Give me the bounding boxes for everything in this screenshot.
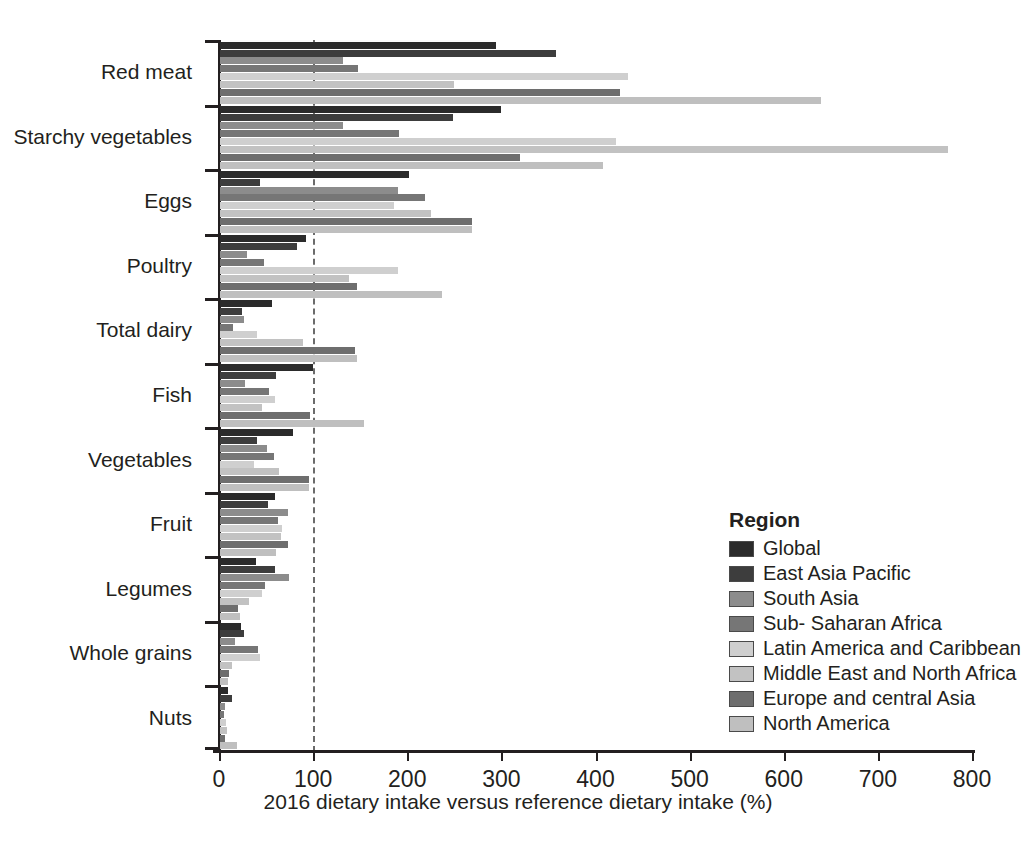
legend-item[interactable]: North America bbox=[729, 711, 1021, 736]
bar bbox=[220, 437, 257, 444]
bar bbox=[220, 461, 254, 468]
bar bbox=[220, 73, 628, 80]
bar bbox=[220, 703, 225, 710]
x-axis-tick-label: 400 bbox=[576, 766, 614, 793]
x-axis-line bbox=[213, 750, 975, 753]
bar bbox=[220, 162, 603, 169]
x-axis-tick bbox=[972, 750, 974, 761]
bar bbox=[220, 396, 275, 403]
bar bbox=[220, 711, 224, 718]
legend-swatch bbox=[729, 541, 754, 557]
bar bbox=[220, 429, 293, 436]
bar bbox=[220, 194, 425, 201]
bar bbox=[220, 493, 275, 500]
legend-item[interactable]: Europe and central Asia bbox=[729, 686, 1021, 711]
bar bbox=[220, 300, 272, 307]
bar bbox=[220, 283, 357, 290]
bar bbox=[220, 525, 282, 532]
bar bbox=[220, 412, 310, 419]
y-axis-category-label: Whole grains bbox=[69, 641, 192, 665]
legend-swatch bbox=[729, 591, 754, 607]
bar bbox=[220, 623, 241, 630]
bar bbox=[220, 687, 228, 694]
legend-item[interactable]: Global bbox=[729, 536, 1021, 561]
bar bbox=[220, 735, 225, 742]
bar bbox=[220, 501, 268, 508]
legend-item[interactable]: South Asia bbox=[729, 586, 1021, 611]
y-axis-tick bbox=[205, 556, 219, 559]
legend-swatch bbox=[729, 641, 754, 657]
y-axis-category-label: Eggs bbox=[144, 189, 192, 213]
y-axis-category-label: Total dairy bbox=[96, 318, 192, 342]
y-axis-category-label: Nuts bbox=[149, 706, 192, 730]
legend-item-label: Latin America and Caribbean bbox=[763, 637, 1021, 660]
legend-item[interactable]: East Asia Pacific bbox=[729, 561, 1021, 586]
x-axis-tick-label: 800 bbox=[953, 766, 991, 793]
legend-item[interactable]: Sub- Saharan Africa bbox=[729, 611, 1021, 636]
x-axis-tick bbox=[501, 750, 503, 761]
bar bbox=[220, 388, 269, 395]
bar bbox=[220, 114, 453, 121]
y-axis-category-label: Poultry bbox=[127, 254, 192, 278]
bar bbox=[220, 613, 240, 620]
bar bbox=[220, 50, 556, 57]
x-axis-tick-label: 600 bbox=[765, 766, 803, 793]
bar bbox=[220, 267, 398, 274]
legend-swatch bbox=[729, 616, 754, 632]
bar bbox=[220, 719, 226, 726]
bar bbox=[220, 218, 472, 225]
y-axis-category-label: Red meat bbox=[101, 60, 192, 84]
y-axis-tick bbox=[205, 747, 219, 750]
y-axis-category-label: Vegetables bbox=[88, 448, 192, 472]
x-axis-title: 2016 dietary intake versus reference die… bbox=[0, 790, 1036, 814]
bar bbox=[220, 259, 264, 266]
bar bbox=[220, 476, 309, 483]
y-axis-category-label: Legumes bbox=[106, 577, 192, 601]
x-axis-tick-label: 200 bbox=[388, 766, 426, 793]
bar bbox=[220, 130, 399, 137]
y-axis-tick bbox=[205, 363, 219, 366]
bar bbox=[220, 654, 260, 661]
bar bbox=[220, 235, 306, 242]
bar bbox=[220, 445, 267, 452]
bar bbox=[220, 517, 278, 524]
bar-group bbox=[219, 40, 972, 105]
legend-item[interactable]: Latin America and Caribbean bbox=[729, 636, 1021, 661]
bar bbox=[220, 574, 289, 581]
bar bbox=[220, 154, 520, 161]
legend-swatch bbox=[729, 691, 754, 707]
legend-swatch bbox=[729, 566, 754, 582]
y-axis-tick bbox=[205, 685, 219, 688]
bar bbox=[220, 364, 313, 371]
bar bbox=[220, 590, 262, 597]
legend-items: GlobalEast Asia PacificSouth AsiaSub- Sa… bbox=[729, 536, 1021, 736]
legend-item-label: Global bbox=[763, 537, 821, 560]
bar bbox=[220, 742, 237, 749]
x-axis-tick-label: 100 bbox=[294, 766, 332, 793]
y-axis-tick bbox=[205, 169, 219, 172]
bar bbox=[220, 316, 244, 323]
bar bbox=[220, 662, 232, 669]
bar bbox=[220, 291, 442, 298]
bar bbox=[220, 89, 620, 96]
bar bbox=[220, 541, 288, 548]
legend-item[interactable]: Middle East and North Africa bbox=[729, 661, 1021, 686]
chart-root: Red meatStarchy vegetablesEggsPoultryTot… bbox=[0, 0, 1036, 846]
bar bbox=[220, 509, 288, 516]
bar bbox=[220, 372, 276, 379]
bar bbox=[220, 533, 281, 540]
x-axis-tick-label: 0 bbox=[213, 766, 226, 793]
bar bbox=[220, 122, 343, 129]
bar bbox=[220, 171, 409, 178]
legend-item-label: South Asia bbox=[763, 587, 859, 610]
bar bbox=[220, 243, 297, 250]
bar bbox=[220, 638, 235, 645]
bar bbox=[220, 558, 256, 565]
x-axis-tick-label: 300 bbox=[482, 766, 520, 793]
bar bbox=[220, 582, 265, 589]
bar bbox=[220, 179, 260, 186]
bar bbox=[220, 347, 355, 354]
bar bbox=[220, 380, 245, 387]
bar bbox=[220, 355, 357, 362]
legend-title: Region bbox=[729, 508, 1021, 532]
